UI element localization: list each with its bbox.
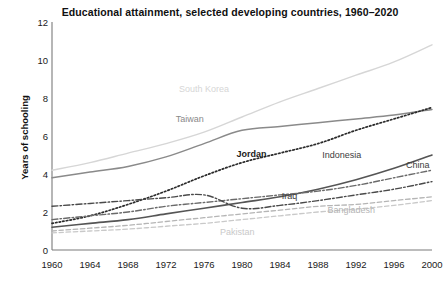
x-tick-label: 1988 [307, 259, 328, 270]
x-tick-label: 1980 [231, 259, 252, 270]
x-tick-label: 1964 [79, 259, 100, 270]
series-label-jordan: Jordan [236, 149, 266, 159]
x-tick-label: 1992 [345, 259, 366, 270]
x-tick-label: 1960 [41, 259, 62, 270]
x-tick-label: 1976 [193, 259, 214, 270]
series-line-taiwan [52, 109, 432, 177]
series-label-taiwan: Taiwan [176, 114, 204, 124]
series-label-south-korea: South Korea [179, 84, 229, 94]
x-tick-label: 1968 [117, 259, 138, 270]
axis-lines [52, 22, 432, 250]
x-tick-label: 1972 [155, 259, 176, 270]
x-tick-label: 2000 [421, 259, 442, 270]
x-tick-label: 1996 [383, 259, 404, 270]
series-label-indonesia: Indonesia [322, 150, 361, 160]
x-tick-label: 1984 [269, 259, 290, 270]
series-label-china: China [406, 160, 430, 170]
series-label-bangladesh: Bangladesh [327, 205, 375, 215]
series-label-iraq: Iraq [282, 191, 298, 201]
series-line-indonesia [52, 155, 432, 227]
series-label-pakistan: Pakistan [220, 227, 255, 237]
